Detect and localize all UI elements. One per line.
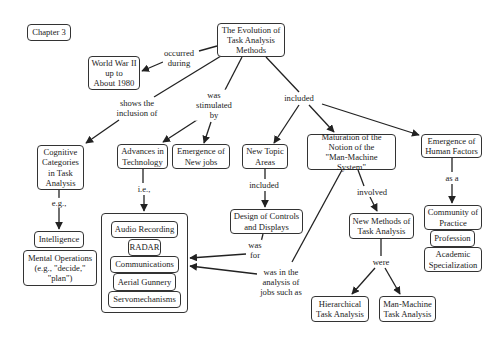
node-wwii: World War II up to About 1980: [88, 56, 140, 90]
node-new-methods: New Methods of Task Analysis: [349, 213, 414, 239]
tech-servomechanisms: Servomechanisms: [108, 291, 181, 308]
node-advances-technology: Advances in Technology: [117, 144, 168, 169]
node-new-jobs: Emergence of New jobs: [172, 144, 230, 169]
link-label-eg: e.g.,: [51, 198, 68, 208]
node-new-topic-areas: New Topic Areas: [242, 144, 288, 169]
chapter-tag: Chapter 3: [27, 24, 71, 41]
link-label-ie: i.e.,: [137, 184, 152, 194]
node-design-controls: Design of Controls and Displays: [230, 209, 303, 234]
link-label-were: were: [372, 257, 391, 267]
link-label-occurred-during: occurred during: [163, 48, 195, 68]
node-hierarchical: Hierarchical Task Analysis: [311, 296, 369, 322]
node-academic-specialization: Academic Specialization: [424, 247, 482, 272]
node-community-practice: Community of Practice: [424, 205, 482, 230]
tech-radar: RADAR: [128, 239, 161, 256]
link-label-included: included: [283, 93, 315, 103]
link-label-was-in-analysis: was in the analysis of jobs such as: [259, 267, 303, 298]
node-human-factors: Emergence of Human Factors: [421, 134, 482, 158]
link-label-shows-inclusion: shows the inclusion of: [116, 98, 159, 118]
node-maturation: Maturation of the Notion of the "Man-Mac…: [307, 134, 396, 170]
node-man-machine-task: Man-Machine Task Analysis: [379, 296, 436, 322]
link-label-involved: involved: [356, 187, 388, 197]
node-cognitive-categories: Cognitive Categories in Task Analysis: [37, 145, 84, 190]
tech-audio-recording: Audio Recording: [111, 221, 178, 238]
tech-communications: Communications: [110, 256, 179, 273]
link-label-included-2: included: [248, 180, 280, 190]
link-label-was-for: was for: [247, 240, 262, 260]
node-intelligence: Intelligence: [34, 231, 84, 248]
link-label-as-a: as a: [444, 173, 459, 183]
node-profession: Profession: [430, 230, 475, 247]
node-mental-operations: Mental Operations (e.g., "decide," "plan…: [23, 250, 97, 286]
root-node: The Evolution of Task Analysis Methods: [217, 23, 285, 57]
tech-aerial-gunnery: Aerial Gunnery: [113, 273, 176, 291]
link-label-stimulated-by: was stimulated by: [195, 90, 233, 121]
